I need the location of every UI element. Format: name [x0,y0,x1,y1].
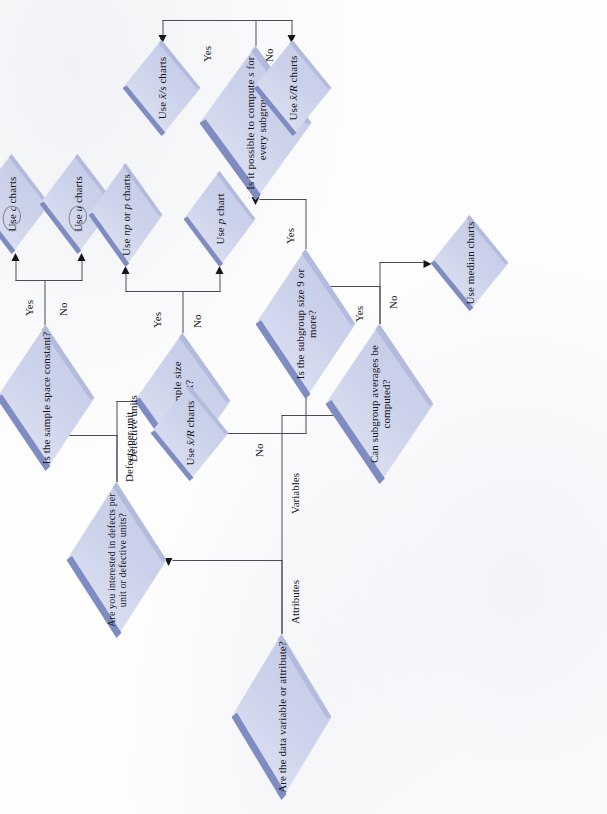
edge-label-space-yes: Yes [22,300,34,316]
edge-avg-no-v [379,262,423,263]
arrow-to-c-charts [11,253,19,261]
node-sample-space-constant[interactable]: Is the sample space constant? [0,325,94,471]
node-label: Use c charts [5,171,17,238]
edge-avg-no-h [379,262,380,324]
edge-label-size-yes: Yes [150,312,162,328]
edge-size-split-v [125,291,220,292]
arrow-to-p-chart [215,266,223,274]
edge-label-subsize-no: No [252,444,264,457]
edge-size-no-h2 [219,272,220,292]
edge-label-variables: Variables [288,473,300,514]
edge-root-attributes-v [172,560,282,561]
edge-label-avg-yes: Yes [352,306,364,322]
edge-size-h [182,291,183,333]
edge-label-computes-yes: Yes [200,46,212,62]
edge-label-avg-no: No [386,296,398,309]
node-xbar-r-charts-left[interactable]: Use x̄/R charts [150,385,228,481]
edge-space-yes-h [44,280,45,325]
node-label: Use x̄/s charts [155,51,167,126]
edge-space-no-h2 [81,259,82,281]
node-subgroup-size[interactable]: Is the subgroup size 9 or more? [255,249,355,399]
node-label: Are you interested in defects per unit o… [105,482,127,638]
edge-space-split-v [15,280,82,281]
node-xbar-s-charts[interactable]: Use x̄/s charts [122,40,200,136]
edge-computes-split-v [162,20,292,21]
edge-label-space-no: No [56,303,68,316]
node-label: Use np or p charts [119,168,131,262]
edge-size-yes-h2 [125,272,126,292]
flowchart-page: Are the data variable or attribute? Attr… [0,0,607,814]
node-median-charts[interactable]: Use median charts [430,215,508,311]
edge-label-subsize-yes: Yes [283,228,295,244]
edge-subsize-yes-h [305,199,306,249]
node-interest[interactable]: Are you interested in defects per unit o… [66,482,166,638]
node-label: Use x̄/R charts [183,395,195,472]
node-label: Is the subgroup size 9 or more? [293,249,318,399]
edge-label-size-no: No [190,315,202,328]
edge-space-yes-h2 [15,259,16,281]
edge-label-defective-units: Defective units [126,395,138,462]
edge-subsize-no-h [305,398,306,434]
node-label: Use x̄/R charts [286,50,298,127]
flowchart-canvas: Are the data variable or attribute? Attr… [0,0,607,814]
arrow-to-np-p-charts [121,266,129,274]
arrow-to-u-charts [77,253,85,261]
node-label: Are the data variable or attribute? [275,635,287,799]
edge-interest-defective-h [116,401,117,482]
node-root[interactable]: Are the data variable or attribute? [231,634,331,800]
edge-label-attributes: Attributes [288,580,300,624]
node-label: Use u charts [71,170,83,238]
node-np-p-charts[interactable]: Use np or p charts [88,163,162,267]
edge-root-variables-h [281,415,282,634]
edge-label-computes-no: No [262,49,274,62]
node-label: Can subgroup averages be computed? [367,324,392,484]
node-label: Use median charts [463,216,475,311]
node-label: Is the sample space constant? [39,326,51,470]
